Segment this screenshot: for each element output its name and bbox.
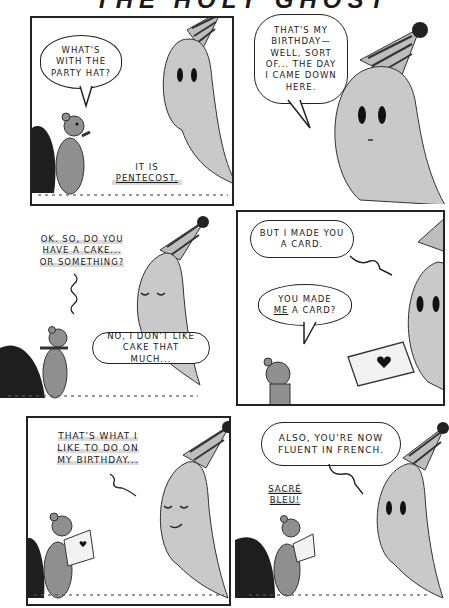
ground-line	[38, 194, 228, 196]
squiggle-tail	[350, 256, 395, 280]
ground-line	[34, 594, 224, 596]
comic-title: THE HOLY GHOST	[95, 0, 390, 14]
squirrel-illustration	[0, 318, 80, 403]
squirrel-illustration	[32, 98, 102, 198]
speech-bubble-squirrel: YOU MADE ME A CARD?	[258, 284, 352, 326]
panel-5: THAT'S WHAT I LIKE TO DO ON MY BIRTHDAY.…	[26, 416, 231, 606]
panel-4: BUT I MADE YOU A CARD. YOU MADE ME A CAR…	[236, 210, 445, 406]
squirrel-illustration	[235, 510, 325, 605]
bubble-text: BUT I MADE YOU A CARD.	[259, 228, 345, 251]
ghost-illustration	[320, 20, 449, 204]
squirrel-dialogue: OK. SO, DO YOU HAVE A CAKE... OR SOMETHI…	[38, 234, 126, 268]
bubble-tail	[302, 322, 318, 346]
speech-bubble-ghost: BUT I MADE YOU A CARD.	[250, 220, 354, 258]
dialogue-prefix: IT IS	[112, 162, 182, 173]
birthday-card-illustration	[348, 342, 418, 387]
panel-2: THAT'S MY BIRTHDAY— WELL, SORT OF... THE…	[240, 14, 449, 204]
squirrel-exclamation: SACRÉ BLEU!	[255, 484, 315, 507]
bubble-text: YOU MADE ME A CARD?	[274, 294, 337, 317]
dialogue-suffix: A CARD?	[292, 305, 336, 315]
squirrel-illustration	[28, 508, 108, 603]
squiggle-tail	[68, 274, 80, 314]
ground-line	[249, 594, 429, 596]
ghost-illustration	[365, 418, 449, 603]
speech-bubble-squirrel: WHAT'S WITH THE PARTY HAT?	[40, 35, 122, 89]
bubble-text: WHAT'S WITH THE PARTY HAT?	[49, 45, 113, 79]
panel-3: OK. SO, DO YOU HAVE A CAKE... OR SOMETHI…	[0, 210, 236, 405]
ghost-dialogue: IT IS PENTECOST.	[112, 162, 182, 185]
dialogue-emphasis: ME	[274, 305, 289, 315]
dialogue-text: THAT'S WHAT I LIKE TO DO ON MY BIRTHDAY.…	[57, 431, 138, 465]
dialogue-emphasis: PENTECOST.	[112, 173, 182, 184]
ground-line	[8, 395, 198, 397]
speech-bubble-ghost: NO, I DON'T LIKE CAKE THAT MUCH...	[92, 332, 210, 364]
squiggle-tail	[329, 464, 369, 498]
bubble-tail	[286, 100, 316, 130]
bubble-text: NO, I DON'T LIKE CAKE THAT MUCH...	[101, 331, 201, 365]
panel-1: WHAT'S WITH THE PARTY HAT? IT IS PENTECO…	[30, 16, 234, 206]
dialogue-prefix: YOU MADE	[278, 294, 331, 304]
squirrel-illustration	[256, 352, 306, 406]
squiggle-tail	[110, 474, 140, 498]
dialogue-text: SACRÉ BLEU!	[268, 484, 301, 505]
ghost-illustration	[148, 420, 231, 605]
panel-6: ALSO, YOU'RE NOW FLUENT IN FRENCH. SACRÉ…	[235, 414, 449, 608]
dialogue-text: OK. SO, DO YOU HAVE A CAKE... OR SOMETHI…	[40, 234, 125, 267]
squirrel-dialogue: THAT'S WHAT I LIKE TO DO ON MY BIRTHDAY.…	[48, 430, 148, 466]
